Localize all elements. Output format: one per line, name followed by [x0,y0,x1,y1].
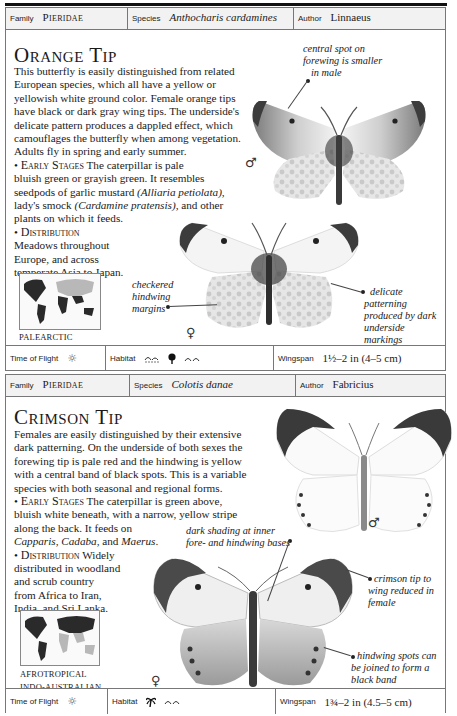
text: The caterpillar is green above, [86,495,222,507]
sun-icon: ☼ [67,352,77,365]
palm-tree-icon [146,696,156,707]
species-title: Crimson Tip [14,405,123,430]
text: Widely [82,549,114,561]
habitat-cell: Habitat [108,689,276,714]
time-of-flight-label: Time of Flight [10,354,58,363]
description-line: have black or dark gray wing tips. The u… [14,105,254,118]
wingspan-label: Wingspan [280,697,316,706]
wingspan-value: 1¾–2 in (4.5–5 cm) [325,696,412,708]
caption-dark-shading: dark shading at inner fore- and hindwing… [186,525,290,549]
description-line: yellowish white ground color. Female ora… [14,92,254,105]
caption-male-spot: central spot on forewing is smaller in m… [303,43,382,79]
description-line: European species, which all have a yello… [14,78,254,91]
caption-line: forewing is smaller [303,55,382,67]
description-line: Females are easily distinguished by thei… [14,428,264,441]
distribution-heading: Distribution [21,548,80,562]
caption-crimson-tip: crimson tip to wing reduced in female [368,573,434,609]
author-cell: Author Linnaeus [294,8,445,29]
text: The caterpillar is pale [86,159,183,171]
species-cell: Species Anthocharis cardamines [128,8,294,29]
tree-icon [168,353,176,364]
entry-header: Family Pieridae Species Anthocharis card… [6,7,445,30]
species-cell: Species Colotis danae [130,375,296,396]
caption-line: fore- and hindwing bases [186,537,290,549]
caption-line: checkered [132,279,173,291]
author-value: Fabricius [333,378,374,390]
description-line: with a central band of black spots. This… [14,468,264,481]
caption-line: patterning [364,298,445,310]
entry-footer: Time of Flight ☼ Habitat Wingspan 1¾–2 i… [6,688,445,714]
early-stages-heading: Early Stages [21,158,84,172]
caption-line: crimson tip to [368,573,434,585]
male-butterfly-image [249,79,429,209]
female-butterfly-image [166,211,371,341]
text: and other [178,199,223,211]
region-name: PALEARCTIC [19,331,73,344]
female-butterfly-image [148,553,358,691]
wingspan-value: 1½–2 in (4–5 cm) [323,352,402,364]
caption-line: black band [351,674,437,686]
grassland-icon [164,698,180,705]
early-stages-section: • Early Stages The caterpillar is pale [14,159,254,172]
wingspan-cell: Wingspan 1¾–2 in (4.5–5 cm) [276,689,445,714]
leader-dot [351,655,355,659]
caption-line: female [368,597,434,609]
caption-line: hindwing spots can [351,650,437,662]
caption-line: produced by dark [364,310,445,322]
early-stages-line: bluish white beneath, with a narrow, yel… [14,508,264,521]
caption-line: in male [303,67,382,79]
time-of-flight-cell: Time of Flight ☼ [6,689,108,714]
habitat-label: Habitat [112,697,137,706]
species-value: Anthocharis cardamines [169,11,276,23]
description-line: Adults fly in spring and early summer. [14,145,254,158]
caption-line: central spot on [303,43,382,55]
family-label: Family [10,381,34,390]
female-symbol: ♀ [186,325,196,340]
species-value: Colotis danae [171,378,232,390]
leader-dot [368,577,372,581]
early-stages-heading: Early Stages [21,494,84,508]
caption-line: dark shading at inner [186,525,290,537]
latin-name: Cadaba [61,535,96,547]
map-region-label: PALEARCTIC [19,331,73,344]
text: , and [97,535,122,547]
author-cell: Author Fabricius [296,375,445,396]
family-value: Pieridae [43,11,84,23]
wingspan-label: Wingspan [278,354,314,363]
description-line: camouflages the butterfly when among veg… [14,132,254,145]
distribution-map [19,273,101,330]
caption-line: be joined to form a [351,662,437,674]
description-line: forewing tip is pale red and the hindwin… [14,455,264,468]
author-label: Author [300,381,324,390]
early-stages-line: bluish green or grayish green. It resemb… [14,172,254,185]
time-of-flight-cell: Time of Flight ☼ [6,346,106,370]
male-symbol: ♂ [368,515,380,530]
author-label: Author [298,14,322,23]
description-line: dark patterning. On the underside of bot… [14,441,264,454]
sun-icon: ☼ [67,695,77,708]
author-value: Linnaeus [331,11,371,23]
species-label: Species [134,381,162,390]
caption-line: delicate [364,286,445,298]
male-butterfly-image [273,399,455,535]
latin-name: (Alliaria petiolata), [137,186,225,198]
entry-footer: Time of Flight ☼ Habitat Wingspan 1½–2 i… [6,345,445,370]
grassland-icon [184,355,200,362]
family-value: Pieridae [43,378,84,390]
description-line: species with both seasonal and regional … [14,482,264,495]
wetland-icon [144,354,160,363]
description-line: delicate pattern produces a dappled effe… [14,119,254,132]
latin-name: Maerus [121,535,155,547]
species-label: Species [132,14,160,23]
text: seedpods of garlic mustard [14,186,137,198]
caption-line: hindwing [132,291,173,303]
early-stages-section: • Early Stages The caterpillar is green … [14,495,264,508]
caption-hindwing-spots: hindwing spots can be joined to form a b… [351,650,437,686]
latin-name: Capparis [14,535,56,547]
text: lady's smock [14,199,74,211]
time-of-flight-label: Time of Flight [10,697,58,706]
distribution-map [20,610,100,666]
male-symbol: ♂ [245,155,257,170]
entry-header: Family Pieridae Species Colotis danae Au… [6,375,445,397]
species-entry-orange-tip: Family Pieridae Species Anthocharis card… [5,7,446,371]
